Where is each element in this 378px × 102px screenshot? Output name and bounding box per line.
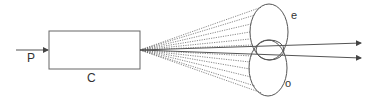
input-label: P [27, 51, 35, 65]
lower-ellipse-label: o [285, 77, 291, 89]
box-label: C [87, 71, 96, 85]
center-ellipse [256, 40, 284, 60]
upper-ellipse-label: e [291, 9, 297, 21]
lower-ellipse [249, 40, 287, 96]
ray-fan [140, 7, 262, 93]
output-arrow-upper [140, 43, 361, 50]
diagram-canvas: P C e o [0, 0, 378, 102]
component-box [49, 31, 140, 69]
